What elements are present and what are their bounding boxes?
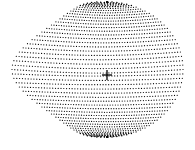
dotted-surface-figure bbox=[0, 0, 195, 150]
dotted-egg-surface bbox=[0, 0, 195, 150]
crosshair-icon bbox=[102, 70, 112, 80]
